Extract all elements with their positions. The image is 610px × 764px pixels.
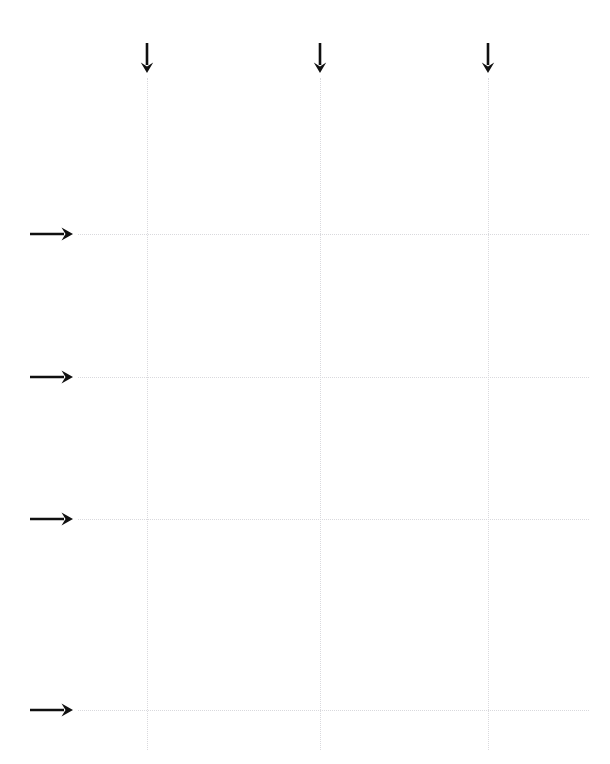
vertical-guide-line — [147, 78, 148, 750]
horizontal-guide-line — [78, 710, 589, 711]
right-arrow-icon — [30, 698, 79, 722]
vertical-guide-line — [488, 78, 489, 750]
horizontal-guide-line — [78, 377, 589, 378]
right-arrow-icon — [30, 222, 79, 246]
right-arrow-icon — [30, 365, 79, 389]
arrow-marker-layer — [0, 0, 610, 764]
worksheet-canvas — [0, 0, 610, 764]
down-arrow-icon — [476, 43, 500, 79]
right-arrow-icon — [30, 507, 79, 531]
dotted-grid-layer — [0, 0, 610, 764]
horizontal-guide-line — [78, 234, 589, 235]
vertical-guide-line — [320, 78, 321, 750]
down-arrow-icon — [135, 43, 159, 79]
down-arrow-icon — [308, 43, 332, 79]
horizontal-guide-line — [78, 519, 589, 520]
